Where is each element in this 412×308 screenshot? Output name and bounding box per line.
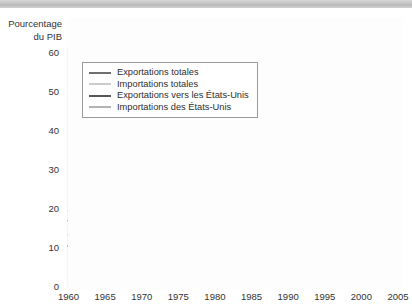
y-tick-label: 20 — [33, 204, 59, 214]
legend-item-imports_total: Importations totales — [89, 79, 249, 91]
x-tick-label: 1990 — [273, 292, 303, 302]
y-tick-label: 30 — [33, 165, 59, 175]
y-tick-label: 40 — [33, 126, 59, 136]
y-axis-title: Pourcentage du PIB — [0, 18, 62, 43]
x-tick-label: 1995 — [310, 292, 340, 302]
legend-label: Importations totales — [117, 79, 198, 90]
x-tick-label: 1965 — [90, 292, 120, 302]
y-tick-label: 10 — [33, 243, 59, 253]
legend-label: Exportations vers les États-Unis — [117, 90, 249, 101]
legend-item-imports_us: Importations des États-Unis — [89, 102, 249, 114]
y-tick-label: 0 — [33, 282, 59, 292]
y-axis-title-line2: du PIB — [0, 31, 62, 44]
x-tick-label: 1975 — [163, 292, 193, 302]
y-axis-title-line1: Pourcentage — [0, 18, 62, 31]
x-tick-label: 1970 — [127, 292, 157, 302]
chart-figure: Pourcentage du PIB 0102030405060 1960196… — [0, 0, 412, 308]
legend-swatch-imports_us — [89, 106, 111, 108]
plot-area-background — [68, 18, 403, 290]
legend-label: Importations des États-Unis — [117, 102, 231, 113]
chart-legend: Exportations totalesImportations totales… — [82, 62, 258, 118]
x-tick-label: 1985 — [237, 292, 267, 302]
legend-swatch-exports_total — [89, 72, 111, 74]
legend-swatch-exports_us — [89, 95, 111, 97]
legend-label: Exportations totales — [117, 67, 199, 78]
y-tick-label: 60 — [33, 48, 59, 58]
x-tick-label: 1980 — [200, 292, 230, 302]
header-bar — [0, 0, 412, 8]
legend-item-exports_total: Exportations totales — [89, 67, 249, 79]
x-tick-label: 2005 — [383, 292, 412, 302]
y-tick-label: 50 — [33, 87, 59, 97]
x-tick-label: 1960 — [54, 292, 84, 302]
legend-item-exports_us: Exportations vers les États-Unis — [89, 90, 249, 102]
x-tick-label: 2000 — [346, 292, 376, 302]
legend-swatch-imports_total — [89, 83, 111, 85]
